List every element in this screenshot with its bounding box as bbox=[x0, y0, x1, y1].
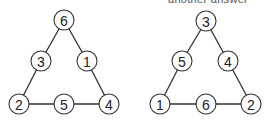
node-right-mid: 1 bbox=[77, 51, 97, 71]
triangle-puzzle-diagram: 631254354162 bbox=[0, 0, 265, 120]
triangle-left: 631254 bbox=[9, 10, 119, 114]
node-label: 1 bbox=[83, 54, 91, 70]
node-label: 3 bbox=[202, 14, 210, 30]
node-label: 2 bbox=[247, 97, 255, 113]
node-left-mid: 3 bbox=[31, 51, 51, 71]
node-label: 4 bbox=[224, 54, 232, 70]
node-bottom-right: 2 bbox=[241, 94, 261, 114]
node-bottom-mid: 6 bbox=[196, 94, 216, 114]
node-label: 3 bbox=[37, 54, 45, 70]
node-label: 6 bbox=[202, 97, 210, 113]
node-label: 1 bbox=[156, 97, 164, 113]
node-bottom-mid: 5 bbox=[54, 94, 74, 114]
node-top: 6 bbox=[54, 10, 74, 30]
triangle-right: 354162 bbox=[150, 11, 261, 114]
node-bottom-left: 2 bbox=[9, 94, 29, 114]
node-bottom-right: 4 bbox=[99, 94, 119, 114]
node-label: 6 bbox=[60, 13, 68, 29]
node-top: 3 bbox=[196, 11, 216, 31]
node-label: 4 bbox=[105, 97, 113, 113]
node-label: 5 bbox=[178, 54, 186, 70]
node-left-mid: 5 bbox=[172, 51, 192, 71]
node-bottom-left: 1 bbox=[150, 94, 170, 114]
node-label: 5 bbox=[60, 97, 68, 113]
node-right-mid: 4 bbox=[218, 51, 238, 71]
node-label: 2 bbox=[15, 97, 23, 113]
